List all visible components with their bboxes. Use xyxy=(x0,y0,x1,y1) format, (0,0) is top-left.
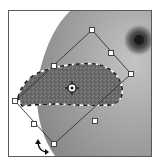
transform-canvas[interactable] xyxy=(0,0,162,165)
transform-handle-right[interactable] xyxy=(129,72,134,77)
transform-handle-bottom-right-mid[interactable] xyxy=(93,119,98,124)
transform-handle-bottom[interactable] xyxy=(52,142,57,147)
transform-handle-left[interactable] xyxy=(13,99,18,104)
transform-handle-top[interactable] xyxy=(90,28,95,33)
transform-handle-top-left-mid[interactable] xyxy=(52,64,57,69)
transform-handle-top-right-mid[interactable] xyxy=(109,51,114,56)
canvas-svg xyxy=(0,0,162,165)
transform-handle-bottom-left-mid[interactable] xyxy=(32,122,37,127)
